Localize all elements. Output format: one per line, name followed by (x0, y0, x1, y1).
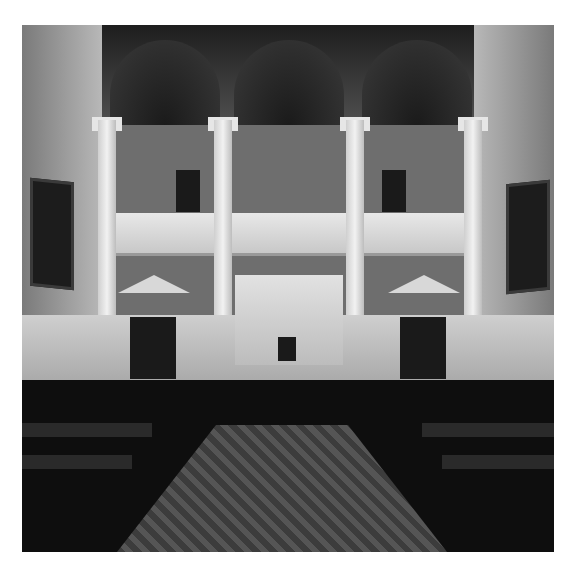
desk-row (22, 455, 132, 469)
lower-door-right (400, 317, 446, 379)
gallery-door-right (382, 170, 406, 212)
portrait-painting-right (506, 180, 550, 295)
marble-column (98, 120, 116, 325)
door-pediment-right (388, 275, 460, 293)
presiding-chair (278, 337, 296, 361)
desk-row (442, 455, 554, 469)
desk-row (422, 423, 554, 437)
marble-column (346, 120, 364, 325)
door-pediment-left (118, 275, 190, 293)
marble-column (464, 120, 482, 325)
portrait-painting-left (30, 178, 74, 291)
lower-door-left (130, 317, 176, 379)
chamber-photograph (22, 25, 554, 552)
gallery-door-left (176, 170, 200, 212)
gallery-balcony (102, 213, 474, 256)
desk-row (22, 423, 152, 437)
marble-column (214, 120, 232, 325)
